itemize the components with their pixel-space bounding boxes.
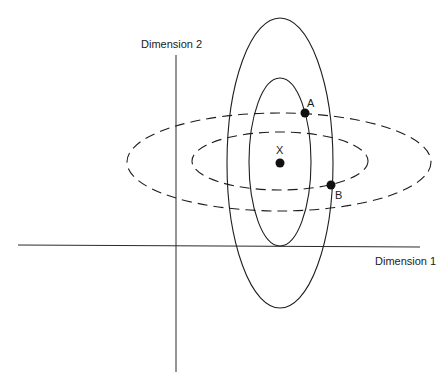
x-axis-label: Dimension 1 — [375, 255, 436, 267]
point-a-label: A — [307, 97, 315, 109]
point-a — [301, 109, 310, 118]
point-x-label: X — [276, 144, 284, 156]
diagram-canvas: X A B Dimension 2 Dimension 1 — [0, 0, 446, 384]
x-axis — [18, 245, 420, 247]
point-b-label: B — [335, 189, 342, 201]
y-axis-label: Dimension 2 — [141, 38, 202, 50]
point-x — [276, 159, 285, 168]
